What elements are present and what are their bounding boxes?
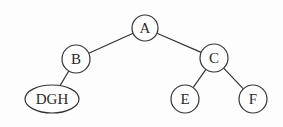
- node-dgh: DGH: [25, 85, 79, 113]
- tree-diagram: ABCDGHEF: [0, 0, 283, 127]
- node-b: B: [62, 45, 90, 73]
- tree-svg: ABCDGHEF: [0, 0, 283, 127]
- node-label: C: [209, 50, 219, 66]
- node-label: DGH: [36, 91, 69, 107]
- edge-c-f: [224, 68, 244, 89]
- edge-a-c: [157, 33, 201, 52]
- node-label: B: [71, 51, 81, 67]
- edge-b-dgh: [60, 71, 69, 86]
- node-label: E: [180, 91, 189, 107]
- node-e: E: [171, 85, 199, 113]
- edge-c-e: [193, 69, 206, 87]
- node-f: F: [239, 85, 267, 113]
- node-label: A: [140, 20, 151, 36]
- node-c: C: [200, 44, 228, 72]
- node-label: F: [249, 91, 257, 107]
- nodes: ABCDGHEF: [25, 15, 267, 113]
- edge-a-b: [89, 33, 133, 53]
- node-a: A: [132, 15, 158, 41]
